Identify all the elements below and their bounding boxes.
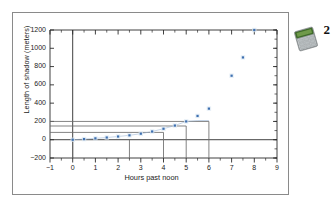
data-point <box>93 136 97 140</box>
graphing-calculator-icon <box>292 26 320 52</box>
data-point <box>207 106 211 110</box>
y-tick-label: 200 <box>13 117 46 124</box>
x-tick-label: 4 <box>154 164 174 171</box>
x-tick-label: 9 <box>267 164 287 171</box>
data-point <box>252 28 256 32</box>
data-point <box>105 135 109 139</box>
data-point <box>173 123 177 127</box>
x-tick-label: 1 <box>85 164 105 171</box>
y-tick-label: 1200 <box>13 26 46 33</box>
x-tick-label: 8 <box>244 164 264 171</box>
x-tick-label: −1 <box>40 164 60 171</box>
data-point <box>229 74 233 78</box>
data-point <box>195 114 199 118</box>
x-tick-label: 5 <box>176 164 196 171</box>
x-tick-label: 2 <box>108 164 128 171</box>
y-tick-label: −200 <box>13 154 46 161</box>
data-point <box>116 134 120 138</box>
data-point <box>127 133 131 137</box>
plot-area: Length of shadow (meters) Hours past noo… <box>13 13 290 196</box>
data-point <box>82 137 86 141</box>
data-point <box>241 55 245 59</box>
y-tick-label: 1000 <box>13 44 46 51</box>
figure-frame: Length of shadow (meters) Hours past noo… <box>12 12 289 195</box>
data-trend-line <box>73 121 209 140</box>
x-tick-label: 6 <box>199 164 219 171</box>
data-point <box>71 138 75 142</box>
data-point <box>184 119 188 123</box>
data-point <box>161 127 165 131</box>
x-tick-label: 3 <box>131 164 151 171</box>
calculator-badge: 2 <box>292 20 330 56</box>
badge-number: 2 <box>324 22 331 38</box>
y-tick-label: 400 <box>13 99 46 106</box>
y-tick-label: 600 <box>13 80 46 87</box>
data-point <box>139 131 143 135</box>
y-tick-label: 0 <box>13 135 46 142</box>
x-tick-label: 7 <box>222 164 242 171</box>
data-point <box>150 129 154 133</box>
figure-root: Length of shadow (meters) Hours past noo… <box>0 0 332 206</box>
y-tick-label: 800 <box>13 62 46 69</box>
x-tick-label: 0 <box>63 164 83 171</box>
